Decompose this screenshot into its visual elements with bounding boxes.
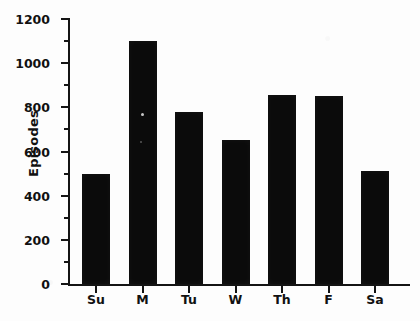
plot-area: 020040060080010001200 (68, 19, 410, 284)
x-axis-line (68, 284, 410, 286)
x-tick-label: W (229, 292, 243, 307)
x-tick-label: Tu (181, 292, 197, 307)
x-tick-label: F (324, 292, 333, 307)
y-tick-label: 800 (24, 100, 50, 115)
bar (268, 95, 296, 284)
bar-chart: Episodes 020040060080010001200 SuMTuWThF… (0, 0, 420, 321)
y-tick-label: 1200 (15, 12, 50, 27)
y-tick-label: 200 (24, 232, 50, 247)
y-tick-minor (64, 217, 69, 219)
bar (129, 41, 157, 284)
y-tick-major: 600 (61, 151, 69, 153)
x-tick-label: M (136, 292, 148, 307)
y-tick-label: 600 (24, 144, 50, 159)
y-tick-label: 0 (41, 277, 50, 292)
y-tick-minor (64, 128, 69, 130)
y-tick-major: 200 (61, 239, 69, 241)
scan-speck (140, 141, 142, 143)
bar (82, 174, 110, 284)
y-tick-minor (64, 261, 69, 263)
y-tick-major: 800 (61, 106, 69, 108)
y-tick-major: 1200 (61, 18, 69, 20)
y-tick-major: 1000 (61, 62, 69, 64)
y-tick-minor (64, 173, 69, 175)
bar (315, 96, 343, 284)
y-tick-label: 1000 (15, 56, 50, 71)
bar (222, 140, 250, 284)
y-tick-minor (64, 40, 69, 42)
scan-speck (141, 113, 144, 116)
x-tick-label: Th (273, 292, 290, 307)
x-tick-label: Sa (366, 292, 383, 307)
bar (175, 112, 203, 284)
y-tick-major: 0 (61, 283, 69, 285)
y-tick-minor (64, 84, 69, 86)
bar (361, 171, 389, 284)
y-tick-label: 400 (24, 188, 50, 203)
x-tick-label: Su (87, 292, 105, 307)
y-tick-major: 400 (61, 195, 69, 197)
